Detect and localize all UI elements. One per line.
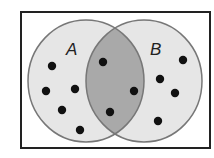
venn-diagram: A B [0,0,214,158]
set-b-label: B [150,40,161,59]
set-a-label: A [65,40,77,59]
